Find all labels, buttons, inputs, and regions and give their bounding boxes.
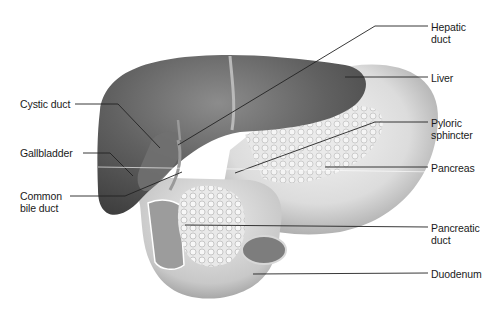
anatomy-figure: Cystic duct Gallbladder Common bile duct…	[0, 0, 502, 321]
label-gallbladder: Gallbladder	[20, 147, 73, 159]
label-pyloric-sphincter: Pyloric sphincter	[431, 117, 473, 141]
label-cystic-duct: Cystic duct	[20, 98, 70, 110]
pancreas-head-shape	[178, 186, 245, 267]
leader-line-duodenum	[253, 273, 428, 274]
label-common-bile-duct: Common bile duct	[20, 190, 62, 214]
label-pancreas: Pancreas	[431, 162, 475, 174]
label-liver: Liver	[431, 72, 453, 84]
organ-illustration	[0, 0, 502, 321]
label-duodenum: Duodenum	[431, 268, 482, 280]
label-pancreatic-duct: Pancreatic duct	[431, 222, 480, 246]
label-hepatic-duct: Hepatic duct	[431, 21, 466, 45]
